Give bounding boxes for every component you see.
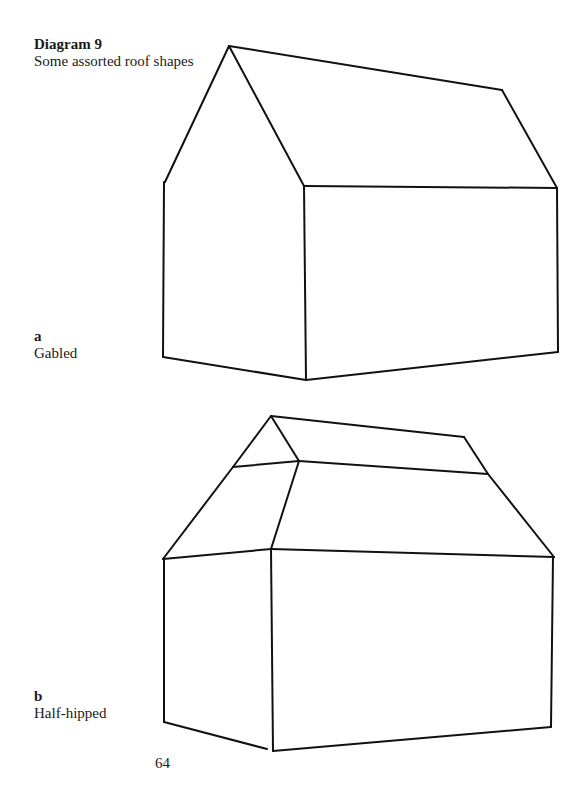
roof-diagrams — [0, 0, 586, 804]
page-number: 64 — [155, 755, 170, 772]
gabled-house-drawing — [163, 46, 558, 380]
half-hipped-house-drawing — [163, 416, 554, 751]
